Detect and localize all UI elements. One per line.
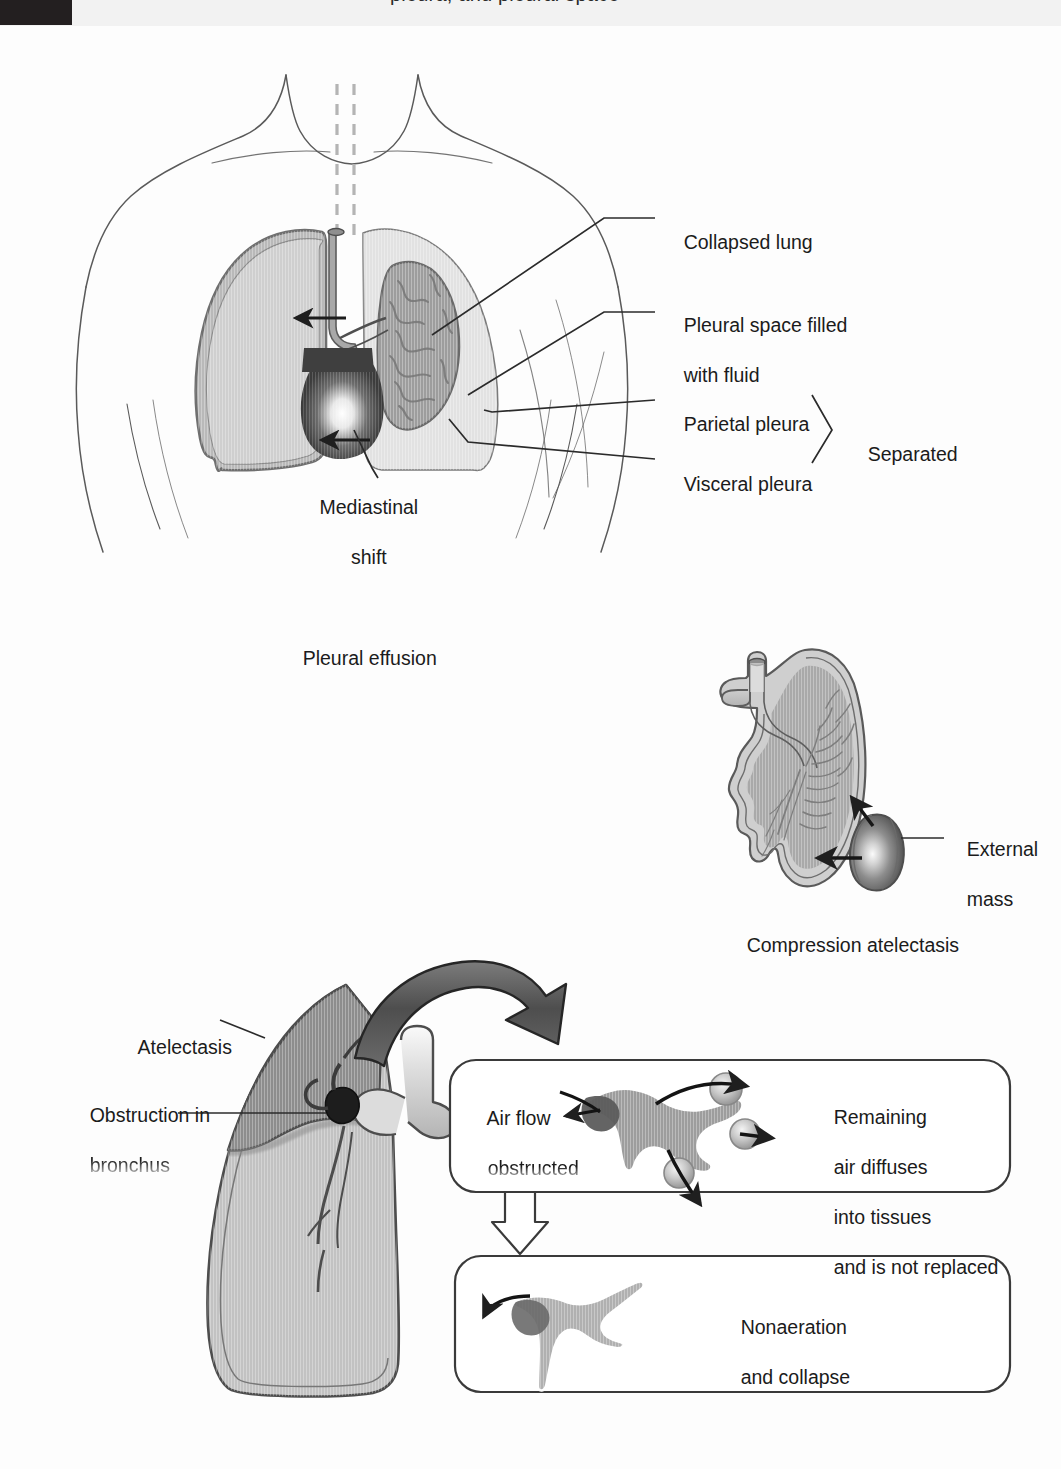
label-obstruction-in-bronchus: Obstruction in bronchus [68,1078,210,1203]
label-atelectasis: Atelectasis [117,1010,232,1085]
external-mass-shape [850,815,904,891]
label-mediastinal-shift: Mediastinal shift [278,470,438,595]
figure-page: pleura, and pleural space [0,0,1061,1469]
caption-compression-atelectasis: Compression atelectasis [725,908,959,983]
label-remaining-air-diffuses: Remaining air diffuses into tissues and … [812,1080,998,1305]
trachea-guide-lines [337,84,354,238]
label-nonaeration-and-collapse: Nonaeration and collapse [719,1290,850,1415]
label-collapsed-lung: Collapsed lung [662,205,813,280]
label-visceral-pleura: Visceral pleura [662,447,812,522]
panel-compression-atelectasis [720,649,944,890]
label-separated: Separated [846,417,958,492]
label-air-flow-obstructed: Air flow obstructed [466,1081,579,1206]
caption-pleural-effusion: Pleural effusion [281,621,437,696]
mediastinum-heart [301,348,384,459]
big-curved-arrow [355,961,566,1066]
